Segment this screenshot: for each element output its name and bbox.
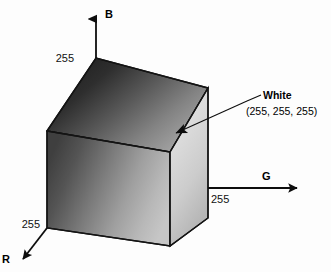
- axis-red-label: R: [2, 253, 10, 265]
- axis-blue: B 255: [56, 8, 113, 64]
- color-cube: [47, 58, 208, 246]
- axis-green-tick-255: 255: [211, 193, 229, 205]
- axis-red-tick-255: 255: [22, 218, 40, 230]
- axis-green: G 255: [208, 170, 297, 205]
- white-callout-underline: [247, 95, 261, 101]
- axis-red: R 255: [2, 218, 47, 265]
- axis-red-line: [23, 228, 47, 259]
- figure-root: B 255 G 255 R 255 White (255, 255, 255): [0, 0, 331, 272]
- white-callout-title: White: [263, 89, 292, 101]
- rgb-color-cube-svg: B 255 G 255 R 255 White (255, 255, 255): [0, 0, 331, 272]
- axis-green-label: G: [262, 170, 271, 182]
- axis-blue-label: B: [105, 8, 113, 20]
- white-callout-value: (255, 255, 255): [246, 105, 317, 117]
- axis-blue-tick-255: 255: [56, 52, 74, 64]
